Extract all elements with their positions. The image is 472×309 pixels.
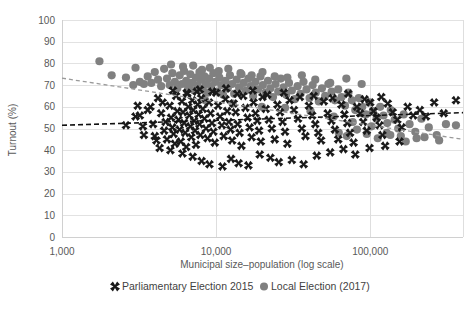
data-point [236, 69, 244, 77]
data-point [255, 126, 264, 135]
data-point [235, 128, 244, 137]
data-point [129, 81, 137, 89]
data-point [139, 130, 148, 139]
data-point [258, 68, 266, 76]
legend-label-local: Local Election (2017) [271, 280, 370, 292]
data-point [151, 68, 159, 76]
legend-item-parliamentary[interactable]: Parliamentary Election 2015 [110, 280, 253, 292]
y-tick-label: 0 [49, 232, 55, 243]
data-point [425, 123, 433, 131]
scatter-chart-svg: 0102030405060708090100 1,00010,000100,00… [0, 0, 472, 309]
data-point [149, 120, 158, 129]
data-point [197, 157, 206, 166]
data-point [237, 141, 246, 150]
data-point [189, 61, 197, 69]
y-tick-label: 90 [44, 36, 56, 47]
data-point [217, 121, 226, 130]
y-tick-label: 60 [44, 101, 56, 112]
data-point [383, 99, 392, 108]
x-axis-title: Municipal size–population (log scale) [180, 259, 343, 270]
data-point [155, 143, 164, 152]
data-point [226, 154, 235, 163]
data-point [359, 117, 368, 126]
data-point [255, 150, 264, 159]
data-point [451, 96, 460, 105]
data-point [264, 77, 272, 85]
data-point [198, 66, 206, 74]
data-point [435, 136, 443, 144]
data-point [273, 100, 282, 109]
data-point [383, 119, 391, 127]
data-point [187, 133, 196, 142]
data-point [339, 145, 348, 154]
data-point [188, 152, 197, 161]
data-point [133, 101, 142, 110]
data-point [241, 103, 250, 112]
data-point [314, 128, 323, 137]
data-point [358, 80, 366, 88]
data-point [312, 151, 321, 160]
data-point [381, 141, 390, 150]
chart-figure: 0102030405060708090100 1,00010,000100,00… [0, 0, 472, 309]
data-point [377, 92, 386, 101]
data-point [219, 132, 228, 141]
data-point [160, 65, 168, 73]
data-point [210, 138, 219, 147]
data-point [264, 115, 273, 124]
data-point [108, 71, 116, 79]
y-axis-title: Turnout (%) [7, 104, 18, 156]
x-axis-tick-labels: 1,00010,000100,000 [49, 246, 388, 257]
x-star-icon [110, 282, 120, 292]
data-point [375, 121, 384, 130]
y-tick-label: 20 [44, 188, 56, 199]
data-point [353, 125, 361, 133]
data-point [266, 153, 275, 162]
data-point [157, 109, 166, 118]
x-tick-label: 100,000 [352, 246, 389, 257]
data-point [386, 131, 394, 139]
data-point [405, 120, 413, 128]
data-point [287, 155, 296, 164]
data-point [245, 123, 254, 132]
data-point [140, 80, 148, 88]
data-point [301, 132, 310, 141]
data-point [205, 160, 214, 169]
data-point [168, 69, 176, 77]
y-tick-label: 80 [44, 58, 56, 69]
circle-icon [260, 283, 268, 291]
data-point [270, 135, 279, 144]
data-point [283, 139, 292, 148]
data-point [231, 108, 240, 117]
data-point [442, 120, 450, 128]
data-point [206, 64, 214, 72]
y-tick-label: 100 [38, 15, 55, 26]
data-point [228, 136, 237, 145]
data-point [430, 98, 439, 107]
data-point [233, 120, 242, 129]
data-point [153, 94, 162, 103]
data-point [365, 143, 374, 152]
data-point [131, 64, 139, 72]
data-point [234, 159, 243, 168]
data-point [298, 71, 306, 79]
data-point [340, 110, 349, 119]
data-point [251, 109, 260, 118]
data-point [224, 65, 232, 73]
data-point [351, 150, 360, 159]
data-point [253, 116, 262, 125]
data-point [256, 137, 265, 146]
data-point [95, 57, 103, 65]
chart-legend: Parliamentary Election 2015 Local Electi… [110, 280, 370, 292]
data-point [276, 108, 285, 117]
y-tick-label: 10 [44, 210, 56, 221]
data-point [334, 85, 342, 93]
data-point [247, 133, 256, 142]
data-point [317, 136, 326, 145]
data-point [224, 117, 233, 126]
data-point [179, 63, 187, 71]
data-point [413, 134, 421, 142]
data-point [420, 133, 428, 141]
data-point [165, 101, 174, 110]
legend-item-local[interactable]: Local Election (2017) [260, 280, 370, 292]
data-point [122, 73, 130, 81]
